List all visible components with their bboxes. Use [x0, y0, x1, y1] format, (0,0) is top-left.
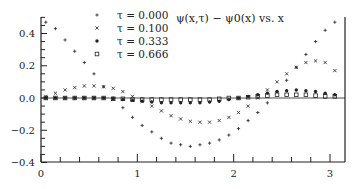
y-tick-label: −0.4	[11, 157, 35, 168]
legend-item: τ = 0.666	[95, 48, 168, 60]
y-tick-label: 0.0	[19, 93, 35, 104]
legend-label: τ = 0.666	[117, 48, 169, 60]
axes: −0.4−0.20.00.20.40123	[11, 17, 345, 179]
series-2	[44, 88, 336, 104]
y-tick-label: −0.2	[11, 125, 35, 136]
x-tick-label: 3	[327, 168, 333, 179]
chart-title: ψ(x,τ) − ψ0(x) vs. x	[176, 12, 285, 25]
series-1	[44, 59, 336, 123]
legend-item: τ = 0.100	[95, 22, 168, 34]
chart: −0.4−0.20.00.20.40123 τ = 0.000τ = 0.100…	[0, 0, 359, 189]
x-tick-label: 1	[134, 168, 140, 179]
data-points	[44, 21, 337, 148]
legend-label: τ = 0.000	[117, 9, 168, 21]
legend: τ = 0.000τ = 0.100τ = 0.333τ = 0.666	[95, 9, 168, 60]
y-tick-label: 0.4	[19, 28, 35, 39]
legend-item: τ = 0.000	[95, 9, 168, 21]
series-3	[44, 93, 337, 101]
legend-item: τ = 0.333	[95, 35, 168, 47]
legend-label: τ = 0.333	[117, 35, 168, 47]
x-tick-label: 2	[230, 168, 236, 179]
legend-label: τ = 0.100	[117, 22, 168, 34]
y-tick-label: 0.2	[19, 60, 35, 71]
x-tick-label: 0	[38, 168, 44, 179]
series-0	[44, 21, 336, 148]
